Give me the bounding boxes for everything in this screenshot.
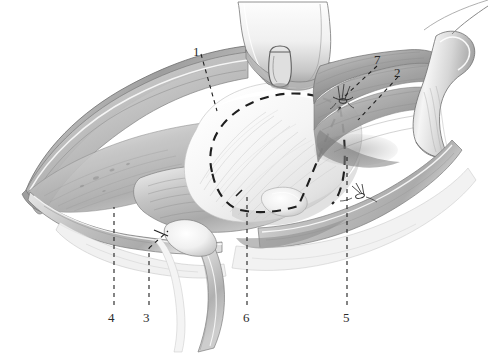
callout-label-5: 5 [343,311,350,324]
callout-label-2: 2 [394,66,401,79]
callout-label-1: 1 [193,45,200,58]
retractor-blade-right [413,0,488,158]
tendon-loop [269,46,292,89]
callout-label-3: 3 [143,311,150,324]
anatomical-figure: 1 2 3 4 5 6 7 [0,0,488,363]
callout-label-6: 6 [243,311,250,324]
callout-label-7: 7 [374,53,381,66]
callout-label-4: 4 [108,311,115,324]
illustration-canvas [0,0,488,363]
